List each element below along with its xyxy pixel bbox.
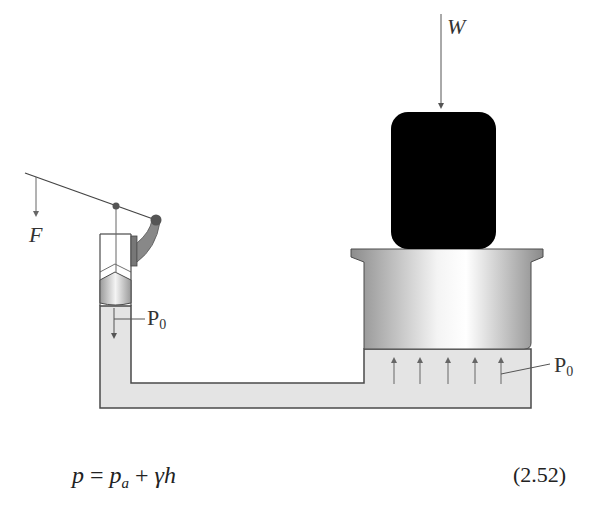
- lever-support: [137, 220, 160, 262]
- pressure-label-right-main: P: [554, 352, 566, 377]
- large-piston: [351, 249, 543, 349]
- pressure-label-left: P0: [147, 305, 166, 333]
- load-block: [391, 112, 496, 249]
- equation-lhs: p: [72, 462, 84, 488]
- equation: p = pa + γh: [72, 462, 176, 492]
- equation-term2: γh: [155, 462, 176, 488]
- equation-number: (2.52): [513, 462, 566, 488]
- equation-plus: +: [135, 462, 149, 488]
- equation-term1-sub: a: [122, 475, 130, 491]
- pressure-label-left-main: P: [147, 305, 159, 330]
- weight-label: W: [447, 14, 465, 40]
- lever-bracket: [131, 236, 137, 266]
- pressure-label-right-sub: 0: [566, 364, 573, 379]
- equation-equals: =: [90, 462, 104, 488]
- pressure-label-right: P0: [554, 352, 573, 380]
- small-piston: [100, 272, 131, 305]
- lever-pivot-small: [113, 203, 120, 210]
- pressure-label-left-sub: 0: [159, 317, 166, 332]
- equation-term1: p: [110, 462, 122, 488]
- lever-pivot-large: [151, 215, 162, 226]
- lever-arm: [25, 173, 156, 220]
- hydraulic-jack-diagram: [0, 0, 602, 440]
- force-label: F: [29, 222, 42, 248]
